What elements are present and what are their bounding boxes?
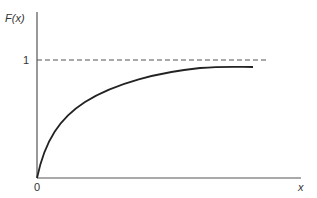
origin-label: 0 (34, 182, 40, 193)
x-axis-label: x (298, 182, 304, 193)
cdf-curve (37, 67, 253, 178)
y-axis-label: F(x) (5, 13, 25, 24)
y-tick-label-one: 1 (23, 55, 29, 66)
chart-canvas (0, 0, 317, 198)
